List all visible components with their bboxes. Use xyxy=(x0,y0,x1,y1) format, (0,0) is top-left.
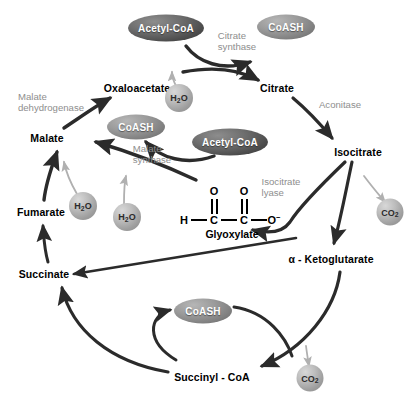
arrow-succinate-to-fumarate xyxy=(43,226,48,262)
bubble-coash-top: CoASH xyxy=(257,15,315,40)
structure-atom-o-left: O xyxy=(210,186,219,197)
sphere-co2-isocitrate: CO2 xyxy=(377,199,404,226)
structure-charge: − xyxy=(276,213,280,222)
arrow-co2-from-isocitrate xyxy=(364,176,385,202)
metabolite-succinate: Succinate xyxy=(19,269,70,280)
arrow-fumarate-to-malate xyxy=(44,152,57,200)
metabolite-alpha-ketoglutarate: α - Ketoglutarate xyxy=(288,254,373,265)
structure-atom-o-minus: O− xyxy=(268,214,281,227)
metabolite-citrate: Citrate xyxy=(260,83,294,94)
enzyme-malate-dehydrogenase: Malate dehydrogenase xyxy=(18,92,84,113)
arrow-ketoglutarate-to-succinylcoa xyxy=(262,272,340,366)
arrow-isocitrate-to-ketoglutarate xyxy=(334,162,352,243)
arrow-oxaloacetate-to-citrate xyxy=(183,69,258,80)
arrow-succinylcoa-to-coash-bottom xyxy=(153,310,176,360)
metabolite-glyoxylate: Glyoxylate xyxy=(205,228,258,240)
enzyme-malate-synthase: Malate synthase xyxy=(133,144,171,165)
bubble-coash-mid: CoASH xyxy=(107,115,165,140)
double-bond-right-b xyxy=(246,199,248,214)
bubble-acetyl-coa-mid: Acetyl-CoA xyxy=(192,129,268,156)
enzyme-aconitase: Aconitase xyxy=(319,100,361,111)
double-bond-right-a xyxy=(241,199,243,214)
enzyme-citrate-synthase: Citrate synthase xyxy=(218,31,256,52)
double-bond-left-a xyxy=(211,199,213,214)
bubble-coash-bottom: CoASH xyxy=(174,299,232,324)
metabolite-fumarate: Fumarate xyxy=(17,207,65,218)
metabolite-malate: Malate xyxy=(30,133,63,144)
arrow-coash-bottom-arm xyxy=(234,307,292,356)
arrow-isocitrate-branch-to-succinate xyxy=(74,238,296,274)
structure-atom-h: H xyxy=(180,215,188,226)
sphere-water-oxaloacetate: H2O xyxy=(165,84,193,112)
glyoxylate-cycle-diagram: Oxaloacetate Citrate Isocitrate α - Keto… xyxy=(0,0,420,403)
single-bond-h-c1 xyxy=(191,219,207,221)
sphere-water-fumarate: H2O xyxy=(69,192,97,220)
arrow-co2-from-ketoglutarate xyxy=(306,346,309,366)
structure-atom-c1: C xyxy=(210,215,218,226)
sphere-water-malate: H2O xyxy=(113,203,141,231)
metabolite-succinyl-coa: Succinyl - CoA xyxy=(174,372,250,383)
arrow-water-malate-synthase xyxy=(124,176,126,204)
metabolite-isocitrate: Isocitrate xyxy=(334,147,382,158)
sphere-co2-succinyl: CO2 xyxy=(297,365,324,392)
structure-atom-o-right: O xyxy=(240,186,249,197)
double-bond-left-b xyxy=(216,199,218,214)
structure-atom-c2: C xyxy=(240,215,248,226)
arrow-water-fumarate-hydration xyxy=(64,162,77,194)
bubble-acetyl-coa-top: Acetyl-CoA xyxy=(128,15,204,42)
metabolite-oxaloacetate: Oxaloacetate xyxy=(104,83,171,94)
single-bond-c1-c2 xyxy=(221,219,237,221)
glyoxylate-structure: O O H C C O− Glyoxylate xyxy=(176,184,288,236)
single-bond-c2-o xyxy=(251,219,267,221)
